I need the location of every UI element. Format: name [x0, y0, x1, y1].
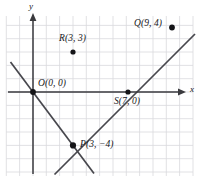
grid-lines [6, 16, 193, 176]
point-label-S: S(7, 0) [114, 97, 140, 107]
point-S [125, 89, 130, 94]
y-axis-arrowhead [30, 13, 37, 21]
y-axis-label: y [29, 2, 33, 11]
point-label-Q: Q(9, 4) [134, 19, 162, 29]
graph-figure: O(0, 0) R(3, 3) Q(9, 4) S(7, 0) P(3, −4)… [0, 0, 205, 184]
point-label-P: P(3, −4) [80, 140, 114, 150]
x-axis-arrowhead [178, 89, 186, 96]
point-label-R: R(3, 3) [59, 34, 86, 44]
coordinate-plane-svg [0, 0, 205, 184]
point-label-O: O(0, 0) [38, 79, 66, 89]
axes [8, 18, 181, 174]
point-Q [169, 25, 175, 31]
point-P [70, 142, 76, 148]
point-O [30, 89, 36, 95]
x-axis-label: x [190, 85, 194, 94]
point-R [70, 49, 75, 54]
